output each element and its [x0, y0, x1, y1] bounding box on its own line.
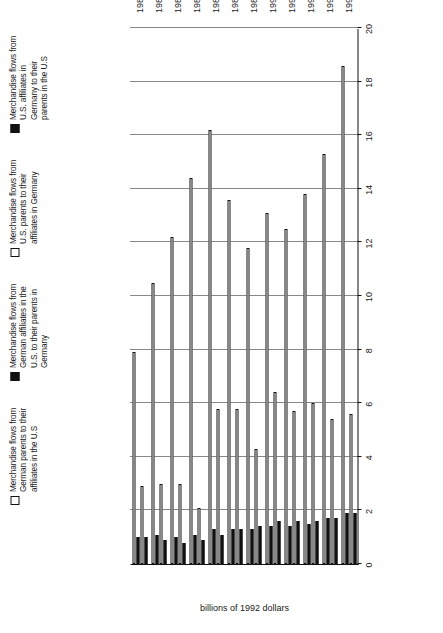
bar: [208, 129, 212, 563]
gridline: [130, 134, 357, 135]
category-axis-label: 1983: [134, 0, 144, 23]
bar: [315, 521, 319, 564]
value-axis-tick-label: 20: [363, 14, 373, 44]
axis-tick: [357, 187, 361, 188]
bar: [349, 413, 353, 563]
bar: [307, 523, 311, 563]
bar: [265, 212, 269, 563]
bar: [288, 526, 292, 564]
bar: [258, 526, 262, 564]
bar: [174, 537, 178, 564]
value-axis-tick-label: 8: [363, 335, 373, 365]
bar: [292, 411, 296, 564]
rotated-figure-wrapper: Merchandise flows from German parents to…: [0, 0, 443, 633]
bar: [239, 529, 243, 564]
bar: [189, 178, 193, 564]
category-axis-label: 1989: [248, 0, 258, 23]
axis-tick: [357, 241, 361, 242]
filled-square-icon: [10, 124, 19, 133]
bar: [140, 486, 144, 564]
open-square-icon: [10, 496, 19, 505]
value-axis-tick-label: 2: [363, 496, 373, 526]
bar: [159, 483, 163, 563]
plot-area: [130, 29, 358, 565]
bar: [144, 537, 148, 564]
bar: [322, 153, 326, 563]
plot-inner: [130, 29, 357, 564]
axis-tick: [357, 134, 361, 135]
bar: [216, 408, 220, 563]
legend-item-label: Merchandise flows from German parents to…: [8, 407, 39, 492]
bar: [345, 513, 349, 564]
value-axis-tick-label: 6: [363, 389, 373, 419]
value-axis-tick-label: 4: [363, 442, 373, 472]
category-axis-label: 1991: [286, 0, 296, 23]
bar: [182, 542, 186, 563]
bar: [277, 521, 281, 564]
bar: [254, 448, 258, 563]
legend-item: Merchandise flows from U.S. affiliates i…: [8, 35, 50, 133]
value-axis-tick-label: 16: [363, 121, 373, 151]
bar: [330, 419, 334, 564]
legend-item: Merchandise flows from German parents to…: [8, 407, 39, 505]
axis-tick: [357, 80, 361, 81]
value-axis-title: billions of 1992 dollars: [130, 603, 358, 617]
bar: [235, 408, 239, 563]
value-axis-tick-label: 12: [363, 228, 373, 258]
chart-legend: Merchandise flows from German parents to…: [8, 35, 124, 505]
category-axis-label: 1988: [229, 0, 239, 23]
open-square-icon: [10, 248, 19, 257]
bar: [193, 534, 197, 563]
chart-stage: Merchandise flows from German parents to…: [8, 17, 393, 617]
bar: [227, 199, 231, 563]
bar: [220, 534, 224, 563]
value-axis-tick-label: 10: [363, 282, 373, 312]
bar: [163, 539, 167, 563]
bar: [296, 521, 300, 564]
bar: [341, 65, 345, 563]
value-axis-tick-label: 0: [363, 550, 373, 580]
axis-tick: [357, 455, 361, 456]
category-axis-label: 1987: [210, 0, 220, 23]
bar: [155, 534, 159, 563]
bar: [212, 529, 216, 564]
figure-page: Merchandise flows from German parents to…: [0, 0, 443, 633]
axis-tick: [357, 402, 361, 403]
axis-tick: [357, 348, 361, 349]
category-axis-label: 1984: [153, 0, 163, 23]
gridline: [130, 80, 357, 81]
bar: [269, 526, 273, 564]
category-axis-label: 1986: [191, 0, 201, 23]
legend-item-label: Merchandise flows from German affiliates…: [8, 283, 50, 368]
bar: [273, 392, 277, 564]
axis-tick: [357, 509, 361, 510]
bar: [334, 518, 338, 564]
bar: [231, 529, 235, 564]
value-axis-tick-label: 18: [363, 67, 373, 97]
bar: [201, 539, 205, 563]
category-axis-label: 1985: [172, 0, 182, 23]
axis-tick: [357, 295, 361, 296]
category-axis-label: 1992: [305, 0, 315, 23]
bar: [326, 518, 330, 564]
bar: [132, 352, 136, 564]
bar: [170, 237, 174, 564]
category-axis-label: 1994: [343, 0, 353, 23]
bar: [151, 282, 155, 563]
bar: [246, 247, 250, 563]
filled-square-icon: [10, 372, 19, 381]
bar: [303, 194, 307, 564]
bar: [136, 537, 140, 564]
legend-item: Merchandise flows from German affiliates…: [8, 283, 50, 381]
legend-item: Merchandise flows from U.S. parents to t…: [8, 159, 39, 257]
bar: [353, 513, 357, 564]
legend-item-label: Merchandise flows from U.S. affiliates i…: [8, 35, 50, 120]
bar: [250, 529, 254, 564]
bar: [197, 507, 201, 563]
legend-item-label: Merchandise flows from U.S. parents to t…: [8, 159, 39, 244]
category-axis-label: 1993: [324, 0, 334, 23]
bar: [178, 483, 182, 563]
value-axis-tick-label: 14: [363, 174, 373, 204]
gridline: [130, 27, 357, 28]
bar: [284, 229, 288, 564]
